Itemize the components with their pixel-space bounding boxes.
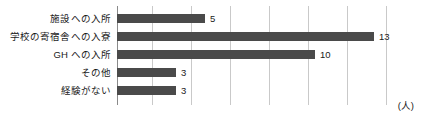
bar-value-2: 10 (320, 46, 331, 64)
bar-rows: 施設への入所 5 学校の寄宿舎への入寮 13 GH への入所 10 その他 (0, 0, 422, 99)
bar-value-4: 3 (181, 82, 186, 100)
bar-value-0: 5 (210, 10, 215, 28)
bar-track-3: 3 (117, 64, 394, 82)
bar-3 (117, 68, 176, 77)
category-label-2: GH への入所 (0, 46, 111, 64)
bar-row: GH への入所 10 (0, 46, 422, 64)
bar-value-1: 13 (379, 28, 390, 46)
bar-value-3: 3 (181, 64, 186, 82)
bar-track-2: 10 (117, 46, 394, 64)
horizontal-bar-chart: 施設への入所 5 学校の寄宿舎への入寮 13 GH への入所 10 その他 (0, 0, 422, 116)
bar-4 (117, 86, 176, 95)
bar-track-0: 5 (117, 10, 394, 28)
bar-row: 経験がない 3 (0, 82, 422, 100)
category-label-1: 学校の寄宿舎への入寮 (0, 28, 111, 46)
category-label-4: 経験がない (0, 82, 111, 100)
bar-0 (117, 14, 205, 23)
bar-2 (117, 50, 315, 59)
bar-track-4: 3 (117, 82, 394, 100)
bar-track-1: 13 (117, 28, 394, 46)
bar-row: 施設への入所 5 (0, 10, 422, 28)
unit-caption: (人) (398, 100, 414, 112)
category-label-3: その他 (0, 64, 111, 82)
bar-row: その他 3 (0, 64, 422, 82)
category-label-0: 施設への入所 (0, 10, 111, 28)
bar-1 (117, 32, 374, 41)
bar-row: 学校の寄宿舎への入寮 13 (0, 28, 422, 46)
